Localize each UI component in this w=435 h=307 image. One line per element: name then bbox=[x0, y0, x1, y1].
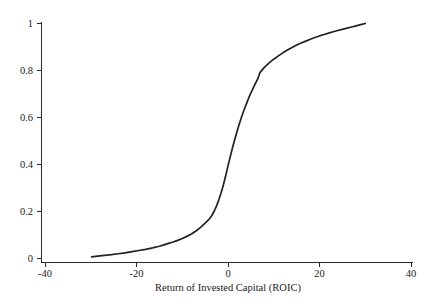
x-tick-label: -20 bbox=[130, 268, 144, 279]
roic-cdf-chart: -40-200204000.20.40.60.81 Return of Inve… bbox=[0, 0, 435, 307]
tick-marks bbox=[37, 23, 411, 267]
y-tick-label: 0 bbox=[28, 253, 33, 264]
y-tick-label: 0.4 bbox=[20, 159, 34, 170]
x-tick-label: 40 bbox=[406, 268, 417, 279]
chart-canvas: -40-200204000.20.40.60.81 Return of Inve… bbox=[0, 0, 435, 307]
axes bbox=[42, 22, 414, 263]
y-tick-label: 1 bbox=[28, 18, 33, 29]
x-tick-label: 0 bbox=[225, 268, 230, 279]
data-series-line bbox=[92, 23, 366, 256]
x-tick-label: 20 bbox=[314, 268, 325, 279]
tick-labels: -40-200204000.20.40.60.81 bbox=[20, 18, 416, 279]
x-axis-title: Return of Invested Capital (ROIC) bbox=[155, 282, 301, 294]
y-tick-label: 0.6 bbox=[20, 112, 33, 123]
data-series bbox=[92, 23, 366, 256]
y-tick-label: 0.8 bbox=[20, 65, 33, 76]
x-tick-label: -40 bbox=[38, 268, 52, 279]
y-tick-label: 0.2 bbox=[20, 206, 33, 217]
